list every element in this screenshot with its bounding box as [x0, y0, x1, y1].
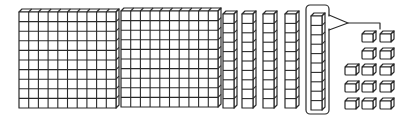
callout-pointer: [329, 15, 348, 30]
unit-cubes-group: [345, 31, 394, 109]
hundreds-flats-group: [19, 8, 221, 108]
unit-cube: [345, 81, 359, 92]
tens-rod: [223, 11, 237, 108]
unit-cube: [362, 81, 376, 92]
unit-cube: [362, 31, 376, 42]
unit-cube: [380, 48, 394, 59]
base-ten-blocks-diagram: Base-ten blocks: 2 hundreds flats, 5 ten…: [0, 0, 413, 120]
unit-cube: [362, 48, 376, 59]
unit-cube: [380, 81, 394, 92]
diagram-canvas: [0, 0, 413, 120]
tens-rods-group: [223, 11, 325, 110]
callout-connector-line: [348, 23, 380, 29]
hundreds-flat: [19, 9, 119, 108]
unit-cube: [380, 31, 394, 42]
unit-cube: [380, 98, 394, 109]
hundreds-flat: [121, 8, 221, 107]
tens-rod: [263, 11, 277, 108]
unit-cube: [380, 64, 394, 75]
unit-cube: [362, 64, 376, 75]
unit-cube: [345, 98, 359, 109]
unit-cube: [362, 98, 376, 109]
unit-cube: [345, 64, 359, 75]
tens-rod: [242, 11, 256, 108]
tens-rod: [285, 11, 299, 108]
tens-rod-boxed: [311, 13, 325, 110]
